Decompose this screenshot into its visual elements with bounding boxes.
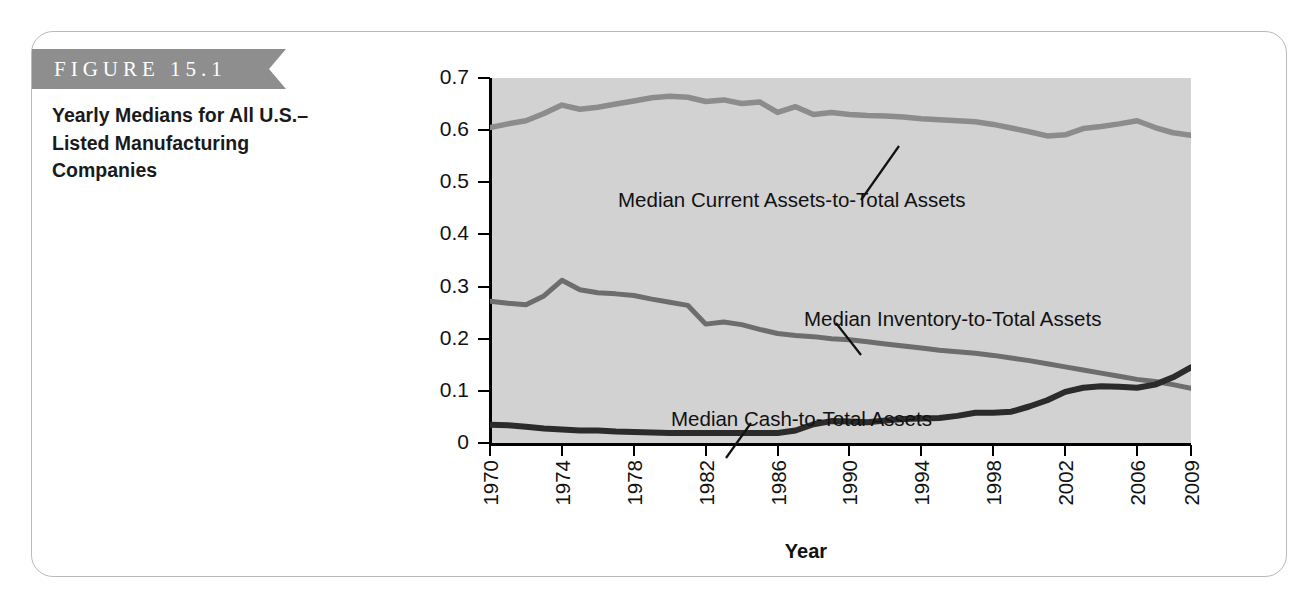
- y-tick: [478, 129, 490, 131]
- x-tick: [992, 445, 994, 456]
- annotation-inventory: Median Inventory-to-Total Assets: [804, 307, 1101, 331]
- series-lines: [490, 78, 1191, 443]
- x-tick: [561, 445, 563, 456]
- y-tick-label: 0.1: [389, 378, 469, 402]
- x-tick: [1064, 445, 1066, 456]
- y-tick: [478, 442, 490, 444]
- x-tick: [1136, 445, 1138, 456]
- x-tick-label: 2009: [1180, 460, 1204, 506]
- x-tick: [705, 445, 707, 456]
- figure-banner: FIGURE 15.1: [32, 49, 269, 89]
- x-tick-label: 1986: [767, 460, 791, 506]
- x-tick: [633, 445, 635, 456]
- banner-arrow-icon: [269, 49, 286, 89]
- y-tick: [478, 286, 490, 288]
- x-axis-title: Year: [406, 540, 1206, 563]
- series-line: [490, 280, 1191, 388]
- annotation-cash: Median Cash-to-Total Assets: [671, 407, 932, 431]
- x-tick: [848, 445, 850, 456]
- y-tick: [478, 390, 490, 392]
- x-tick-label: 2002: [1054, 460, 1078, 506]
- figure-number-label: FIGURE 15.1: [32, 57, 227, 82]
- x-tick-label: 1978: [623, 460, 647, 506]
- y-tick-label: 0.2: [389, 326, 469, 350]
- x-axis-line: [489, 443, 1191, 446]
- x-tick: [489, 445, 491, 456]
- y-tick: [478, 233, 490, 235]
- annotation-current-assets: Median Current Assets-to-Total Assets: [618, 188, 966, 212]
- series-line: [490, 96, 1191, 136]
- x-tick: [777, 445, 779, 456]
- y-tick: [478, 181, 490, 183]
- y-tick-label: 0.4: [389, 221, 469, 245]
- chart-container: 00.10.20.30.40.50.60.7 19701974197819821…: [406, 60, 1206, 560]
- x-tick-label: 1974: [551, 460, 575, 506]
- x-tick-label: 1990: [838, 460, 862, 506]
- y-tick-label: 0.3: [389, 274, 469, 298]
- figure-caption: Yearly Medians for All U.S.–Listed Manuf…: [52, 102, 352, 185]
- x-tick: [920, 445, 922, 456]
- y-tick: [478, 338, 490, 340]
- x-tick-label: 1982: [695, 460, 719, 506]
- x-tick-label: 1994: [910, 460, 934, 506]
- y-tick: [478, 77, 490, 79]
- y-tick-label: 0.7: [389, 65, 469, 89]
- x-tick: [1190, 445, 1192, 456]
- x-tick-label: 1970: [479, 460, 503, 506]
- y-tick-label: 0: [389, 430, 469, 454]
- y-tick-label: 0.6: [389, 117, 469, 141]
- x-tick-label: 1998: [982, 460, 1006, 506]
- x-tick-label: 2006: [1126, 460, 1150, 506]
- y-tick-label: 0.5: [389, 169, 469, 193]
